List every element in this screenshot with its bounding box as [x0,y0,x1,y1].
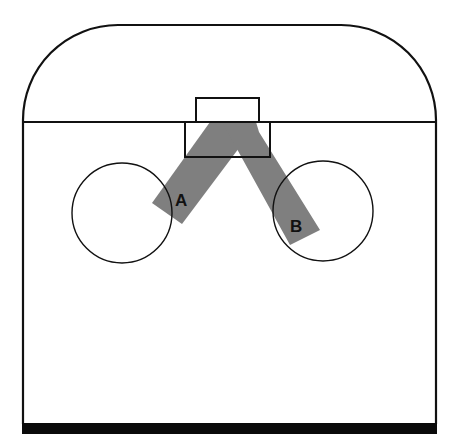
left-circle [72,163,172,263]
enclosure-outline [23,25,436,424]
beam-a-label: A [175,191,187,210]
diagram-canvas: A B [0,0,450,441]
top-small-box [196,98,259,122]
beam-b-label: B [290,217,302,236]
base-bar [22,423,437,434]
